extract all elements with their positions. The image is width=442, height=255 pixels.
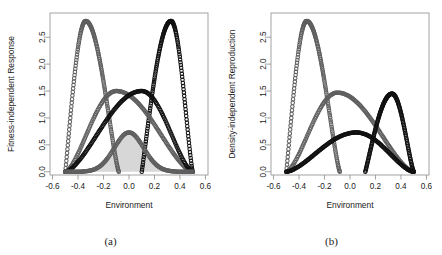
panel-b-caption: (b): [221, 235, 442, 247]
x-tick-label: 0.0: [344, 182, 356, 191]
y-tick-label: 2.5: [38, 31, 47, 43]
y-axis-title: Fitness-independent Response: [6, 36, 16, 152]
y-axis-title: Density-independent Reproduction: [227, 29, 237, 158]
y-tick-label: 2.5: [259, 31, 268, 43]
series-gray-tall-peak: [285, 19, 342, 173]
x-tick-label: 0.2: [370, 182, 382, 191]
x-tick-label: 0.6: [421, 182, 433, 191]
x-tick-label: 0.4: [174, 182, 186, 191]
y-tick-label: 0.5: [259, 139, 268, 151]
x-axis-title: Environment: [105, 200, 153, 210]
figure-container: -0.6-0.4-0.20.00.20.40.60.00.51.01.52.02…: [0, 0, 442, 255]
y-tick-label: 0.0: [38, 166, 47, 178]
x-tick-label: 0.2: [149, 182, 161, 191]
x-tick-label: 0.0: [123, 182, 135, 191]
y-tick-label: 0.5: [38, 139, 47, 151]
x-tick-label: 0.4: [395, 182, 407, 191]
x-tick-label: -0.6: [266, 182, 281, 191]
x-tick-label: 0.6: [200, 182, 212, 191]
y-tick-label: 0.0: [259, 166, 268, 178]
x-tick-label: -0.4: [71, 182, 86, 191]
y-tick-label: 1.0: [38, 112, 47, 124]
plot-b: -0.6-0.4-0.20.00.20.40.60.00.51.01.52.02…: [221, 0, 442, 215]
y-tick-label: 1.0: [259, 112, 268, 124]
x-tick-label: -0.6: [45, 182, 60, 191]
y-tick-label: 2.0: [38, 58, 47, 70]
y-tick-label: 1.5: [38, 85, 47, 97]
x-tick-label: -0.2: [96, 182, 111, 191]
series-black-peak: [364, 92, 416, 174]
x-axis-title: Environment: [326, 200, 374, 210]
y-tick-label: 2.0: [259, 58, 268, 70]
plot-a: -0.6-0.4-0.20.00.20.40.60.00.51.01.52.02…: [0, 0, 221, 215]
x-tick-label: -0.4: [292, 182, 307, 191]
panel-b: -0.6-0.4-0.20.00.20.40.60.00.51.01.52.02…: [221, 0, 442, 255]
y-tick-label: 1.5: [259, 85, 268, 97]
x-tick-label: -0.2: [317, 182, 332, 191]
series-black-tall-peak: [140, 19, 194, 173]
panel-a: -0.6-0.4-0.20.00.20.40.60.00.51.01.52.02…: [0, 0, 221, 255]
panel-a-caption: (a): [0, 235, 221, 247]
